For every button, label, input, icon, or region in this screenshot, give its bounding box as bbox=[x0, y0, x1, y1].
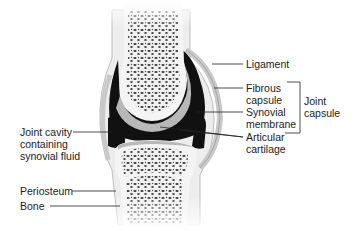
label-bone: Bone bbox=[20, 200, 45, 212]
label-synovial-membrane: Synovial membrane bbox=[246, 106, 296, 130]
label-fibrous-capsule: Fibrous capsule bbox=[246, 82, 282, 106]
label-periosteum: Periosteum bbox=[20, 185, 73, 197]
label-ligament: Ligament bbox=[246, 58, 289, 70]
label-joint-capsule: Joint capsule bbox=[304, 95, 340, 119]
label-joint-cavity: Joint cavity containing synovial fluid bbox=[20, 126, 80, 162]
label-articular-cartilage: Articular cartilage bbox=[246, 131, 286, 155]
